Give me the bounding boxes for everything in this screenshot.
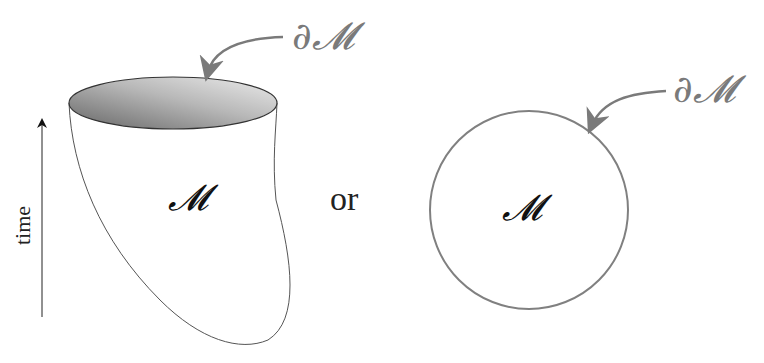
spacetime-region-outline bbox=[69, 103, 290, 344]
diagram-canvas bbox=[0, 0, 764, 363]
boundary-label-left: ∂𝓜 bbox=[292, 17, 355, 55]
time-axis-label: time bbox=[12, 206, 34, 245]
or-connector-label: or bbox=[330, 182, 358, 216]
manifold-label-right: 𝓜 bbox=[502, 190, 542, 226]
boundary-label-right: ∂𝓜 bbox=[673, 70, 736, 108]
boundary-pointer-arrow-left bbox=[208, 37, 283, 72]
boundary-pointer-arrow-right bbox=[592, 91, 666, 125]
manifold-label-left: 𝓜 bbox=[168, 180, 208, 216]
boundary-cap bbox=[69, 77, 277, 129]
